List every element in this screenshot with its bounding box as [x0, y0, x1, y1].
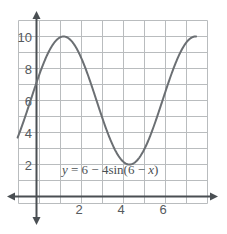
y-tick-label-2: 2	[25, 158, 32, 173]
y-tick-label-4: 4	[25, 126, 32, 141]
y-tick-label-8: 8	[25, 62, 32, 77]
equation-annotation: y = 6 − 4sin(6 − x)	[60, 162, 158, 177]
equation-body: = 6 − 4sin(6 −	[68, 162, 149, 177]
coordinate-plane: 10 8 6 4 2 2 4 6 y = 6 − 4sin(6 − x)	[0, 0, 227, 234]
graph-figure: 10 8 6 4 2 2 4 6 y = 6 − 4sin(6 − x)	[0, 0, 227, 234]
y-tick-label-10: 10	[18, 30, 32, 45]
equation-close-paren: )	[154, 162, 158, 177]
x-tick-label-4: 4	[117, 202, 124, 217]
x-tick-label-6: 6	[159, 202, 166, 217]
x-tick-label-2: 2	[75, 202, 82, 217]
